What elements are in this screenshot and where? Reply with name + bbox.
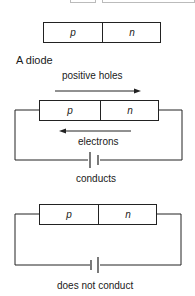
p-label: p	[67, 105, 73, 116]
arrow-left-icon	[59, 129, 131, 134]
n-region: n	[99, 205, 157, 224]
circuit-wiring	[0, 0, 195, 296]
battery-icon	[90, 152, 98, 168]
n-label: n	[125, 209, 131, 220]
n-label: n	[127, 105, 133, 116]
diode-reverse: p n	[39, 204, 157, 225]
p-region: p	[40, 205, 98, 224]
conducts-caption: conducts	[76, 173, 116, 184]
electrons-label: electrons	[78, 136, 119, 147]
p-region: p	[40, 101, 100, 120]
battery-reversed-icon	[91, 257, 98, 273]
positive-holes-label: positive holes	[62, 70, 123, 81]
arrow-right-icon	[55, 89, 141, 94]
p-label: p	[66, 209, 72, 220]
does-not-conduct-caption: does not conduct	[57, 280, 133, 291]
diode-forward: p n	[39, 100, 159, 121]
n-region: n	[101, 101, 159, 120]
